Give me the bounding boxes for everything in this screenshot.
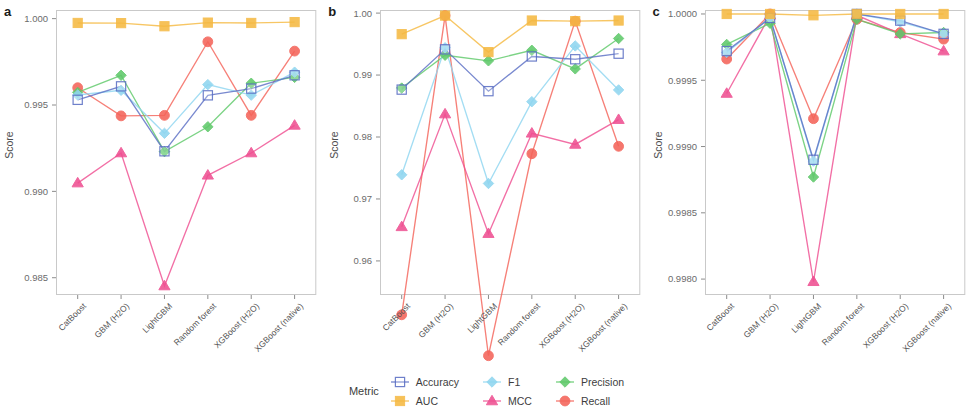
- data-point-accuracy-4: [571, 55, 580, 64]
- data-point-recall-5: [614, 141, 624, 151]
- x-tick-label-1: GBM (H2O): [417, 301, 456, 340]
- y-tick-label: 0.9985: [668, 207, 697, 218]
- data-point-recall-2: [808, 114, 818, 124]
- y-tick-label: 0.9990: [668, 141, 697, 152]
- legend-item-precision[interactable]: Precision: [554, 374, 624, 390]
- x-tick-label-4: XGBoost (H2O): [212, 301, 261, 350]
- data-point-auc-4: [895, 9, 904, 18]
- y-axis-label-c: Score: [649, 0, 667, 290]
- y-axis-label-text-a: Score: [3, 131, 15, 158]
- y-tick-label: 0.9995: [668, 75, 697, 86]
- accuracy-open-square-icon: [389, 374, 411, 390]
- data-point-accuracy-2: [484, 87, 493, 96]
- legend-label-accuracy: Accuracy: [416, 376, 459, 388]
- data-point-auc-1: [116, 19, 125, 28]
- y-tick-label: 1.000: [24, 13, 48, 24]
- panel-c: c Score 0.99800.99850.99900.99951.0000 C…: [649, 0, 973, 355]
- accuracy-open-square-icon-marker: [395, 377, 404, 386]
- mcc-triangle-icon: [481, 393, 503, 409]
- data-point-recall-2: [160, 110, 170, 120]
- data-point-recall-3: [527, 149, 537, 159]
- data-point-accuracy-3: [528, 52, 537, 61]
- panels-container: a Score 0.9850.9900.9951.000 CatBoostGBM…: [0, 0, 973, 355]
- x-tick-label-0: CatBoost: [380, 301, 412, 333]
- data-point-auc-0: [397, 30, 406, 39]
- data-point-auc-5: [290, 17, 299, 26]
- x-tick-label-4: XGBoost (H2O): [536, 301, 585, 350]
- data-point-auc-2: [160, 22, 169, 31]
- y-tick-label: 0.9980: [668, 273, 697, 284]
- data-point-accuracy-5: [614, 49, 623, 58]
- data-point-auc-4: [571, 17, 580, 26]
- legend-item-recall[interactable]: Recall: [554, 393, 624, 409]
- recall-circle-icon-svg: [556, 393, 574, 409]
- y-axis-label-a: Score: [0, 0, 18, 290]
- y-tick-label: 0.96: [354, 255, 373, 266]
- data-point-accuracy-2: [160, 147, 169, 156]
- data-point-auc-3: [852, 9, 861, 18]
- data-point-auc-3: [203, 18, 212, 27]
- data-point-auc-5: [939, 9, 948, 18]
- y-axis-label-text-c: Score: [652, 131, 664, 158]
- recall-circle-icon: [554, 393, 576, 409]
- x-tick-label-3: Random forest: [820, 301, 866, 347]
- y-tick-label: 0.97: [354, 193, 373, 204]
- y-tick-label: 0.99: [354, 69, 373, 80]
- data-point-accuracy-1: [116, 82, 125, 91]
- figure-root: a Score 0.9850.9900.9951.000 CatBoostGBM…: [0, 0, 973, 416]
- panel-b: b Score 0.960.970.980.991.00 CatBoostGBM…: [324, 0, 648, 355]
- data-point-accuracy-1: [441, 45, 450, 54]
- data-point-accuracy-0: [73, 95, 82, 104]
- auc-square-icon: [389, 393, 411, 409]
- data-point-accuracy-2: [808, 155, 817, 164]
- y-tick-label: 0.995: [24, 99, 48, 110]
- plot-area-c: 0.99800.99850.99900.99951.0000: [705, 10, 965, 295]
- panel-a: a Score 0.9850.9900.9951.000 CatBoostGBM…: [0, 0, 324, 355]
- x-tick-label-3: Random forest: [496, 301, 542, 347]
- x-tick-label-3: Random forest: [171, 301, 217, 347]
- data-point-recall-1: [116, 111, 126, 121]
- data-point-auc-0: [722, 9, 731, 18]
- y-tick-label: 1.00: [354, 7, 373, 18]
- data-point-recall-5: [290, 46, 300, 56]
- panel-border: [57, 11, 316, 295]
- data-point-accuracy-0: [397, 85, 406, 94]
- data-point-auc-1: [441, 11, 450, 20]
- data-point-accuracy-5: [939, 29, 948, 38]
- legend-label-auc: AUC: [416, 395, 438, 407]
- f1-diamond-icon-svg: [483, 374, 501, 390]
- x-tick-label-0: CatBoost: [705, 301, 737, 333]
- legend-items: AccuracyF1PrecisionAUCMCCRecall: [389, 372, 624, 410]
- data-point-accuracy-4: [247, 84, 256, 93]
- y-axis-label-b: Score: [324, 0, 342, 290]
- legend-item-accuracy[interactable]: Accuracy: [389, 374, 459, 390]
- mcc-triangle-icon-marker: [486, 395, 497, 404]
- mcc-triangle-icon-svg: [483, 393, 501, 409]
- y-tick-label: 0.990: [24, 186, 48, 197]
- legend-label-mcc: MCC: [508, 395, 532, 407]
- auc-square-icon-marker: [395, 396, 404, 405]
- legend-label-recall: Recall: [581, 395, 610, 407]
- data-point-auc-1: [765, 9, 774, 18]
- legend-item-mcc[interactable]: MCC: [481, 393, 532, 409]
- recall-circle-icon-marker: [560, 396, 570, 406]
- legend-title: Metric: [349, 385, 379, 397]
- data-point-auc-5: [614, 16, 623, 25]
- data-point-auc-3: [528, 16, 537, 25]
- x-tick-label-1: GBM (H2O): [92, 301, 131, 340]
- y-tick-label: 0.985: [24, 272, 48, 283]
- precision-diamond-icon-marker: [560, 376, 570, 386]
- data-point-recall-4: [246, 110, 256, 120]
- x-axis-tick-labels-b: CatBoostGBM (H2O)LightGBMRandom forestXG…: [380, 301, 640, 361]
- x-axis-tick-labels-c: CatBoostGBM (H2O)LightGBMRandom forestXG…: [705, 301, 965, 361]
- y-axis-label-text-b: Score: [327, 131, 339, 158]
- x-axis-tick-labels-a: CatBoostGBM (H2O)LightGBMRandom forestXG…: [56, 301, 316, 361]
- y-tick-label: 0.98: [354, 131, 373, 142]
- plot-area-a: 0.9850.9900.9951.000: [56, 10, 316, 295]
- plot-area-b: 0.960.970.980.991.00: [380, 10, 640, 295]
- x-tick-label-2: LightGBM: [465, 301, 499, 335]
- legend-item-f1[interactable]: F1: [481, 374, 532, 390]
- x-tick-label-0: CatBoost: [56, 301, 88, 333]
- legend-item-auc[interactable]: AUC: [389, 393, 459, 409]
- plot-svg-a: 0.9850.9900.9951.000: [56, 10, 316, 295]
